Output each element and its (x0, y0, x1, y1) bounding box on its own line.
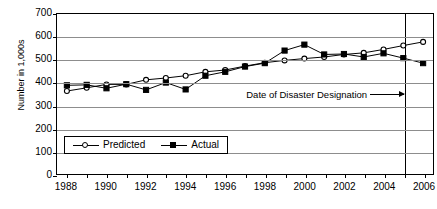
x-tick-mark-minor (206, 175, 207, 178)
y-tick-mark (53, 130, 57, 131)
x-tick-mark-minor (365, 175, 366, 178)
x-tick-mark-minor (326, 175, 327, 178)
x-tick-mark (425, 174, 426, 178)
x-tick-label: 2002 (324, 181, 364, 192)
data-point-actual (302, 42, 307, 47)
x-tick-mark-minor (87, 175, 88, 178)
data-point-predicted (183, 73, 188, 78)
gridline (57, 107, 433, 108)
y-tick-label: 700 (22, 8, 52, 18)
x-tick-mark (147, 174, 148, 178)
y-tick-label: 300 (22, 101, 52, 111)
x-tick-mark-minor (166, 175, 167, 178)
x-tick-label: 1998 (245, 181, 285, 192)
gridline (57, 130, 433, 131)
legend-marker-filled-square (161, 145, 187, 146)
data-point-actual (223, 69, 228, 74)
legend-item-predicted: Predicted (73, 139, 145, 151)
data-point-actual (381, 51, 386, 56)
legend-label: Actual (191, 139, 219, 151)
x-tick-label: 1992 (126, 181, 166, 192)
y-tick-mark (53, 60, 57, 61)
x-tick-label: 1988 (46, 181, 86, 192)
x-tick-label: 1996 (205, 181, 245, 192)
data-point-actual (242, 64, 247, 69)
x-tick-label: 2000 (285, 181, 325, 192)
x-tick-mark-minor (286, 175, 287, 178)
data-point-actual (322, 52, 327, 57)
x-axis-tick-labels: 1988199019921994199619982000200220042006 (0, 181, 437, 195)
chart-legend: PredictedActual (64, 136, 228, 154)
y-tick-label: 100 (22, 147, 52, 157)
arrow-right-icon (370, 94, 404, 95)
data-point-predicted (421, 39, 426, 44)
annotation-text: Date of Disaster Designation (246, 89, 367, 100)
data-point-actual (262, 61, 267, 66)
x-tick-mark-minor (127, 175, 128, 178)
x-tick-label: 1994 (165, 181, 205, 192)
x-tick-label: 2006 (404, 181, 437, 192)
data-point-actual (104, 86, 109, 91)
legend-marker-open-circle (73, 145, 99, 146)
x-tick-mark (266, 174, 267, 178)
gridline (57, 83, 433, 84)
x-tick-label: 1990 (86, 181, 126, 192)
data-point-actual (421, 61, 426, 66)
y-tick-mark (53, 37, 57, 38)
x-tick-mark-minor (246, 175, 247, 178)
y-axis-tick-labels: 7006005004003002001000 (22, 0, 52, 209)
data-point-actual (282, 48, 287, 53)
data-point-predicted (64, 89, 69, 94)
data-point-actual (361, 54, 366, 59)
y-tick-label: 500 (22, 54, 52, 64)
x-tick-mark (345, 174, 346, 178)
legend-label: Predicted (103, 139, 145, 151)
data-point-actual (341, 51, 346, 56)
x-tick-mark (385, 174, 386, 178)
y-tick-label: 600 (22, 31, 52, 41)
x-tick-mark (306, 174, 307, 178)
gridline (57, 60, 433, 61)
x-tick-mark-minor (405, 175, 406, 178)
x-tick-mark (226, 174, 227, 178)
legend-swatch (82, 142, 88, 148)
x-tick-mark (186, 174, 187, 178)
disaster-designation-annotation: Date of Disaster Designation (222, 89, 404, 100)
chart-container: Number in 1,000s 7006005004003002001000 … (0, 0, 437, 209)
y-tick-mark (53, 176, 57, 177)
legend-item-actual: Actual (161, 139, 219, 151)
data-point-actual (183, 87, 188, 92)
legend-swatch (170, 142, 176, 148)
x-tick-mark (67, 174, 68, 178)
y-tick-mark (53, 83, 57, 84)
gridline (57, 37, 433, 38)
data-point-actual (203, 73, 208, 78)
y-tick-label: 200 (22, 124, 52, 134)
y-tick-mark (53, 107, 57, 108)
data-point-actual (143, 87, 148, 92)
y-tick-mark (53, 14, 57, 15)
x-tick-mark (107, 174, 108, 178)
y-tick-label: 0 (22, 170, 52, 180)
data-point-predicted (144, 77, 149, 82)
y-tick-mark (53, 153, 57, 154)
y-tick-label: 400 (22, 77, 52, 87)
x-tick-label: 2004 (364, 181, 404, 192)
